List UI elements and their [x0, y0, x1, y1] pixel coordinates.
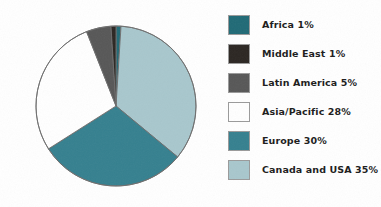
pie-slice-group — [36, 26, 196, 186]
legend-item-label: Asia/Pacific 28% — [262, 107, 351, 117]
legend-item-label: Europe 30% — [262, 136, 327, 146]
pie-chart-svg — [30, 20, 202, 192]
legend-item[interactable]: Africa 1% — [228, 10, 378, 39]
legend-item-label: Africa 1% — [262, 20, 314, 30]
legend-item-label: Latin America 5% — [262, 78, 357, 88]
legend-color-swatch — [228, 131, 250, 151]
legend-item-label: Middle East 1% — [262, 49, 345, 59]
legend-color-swatch — [228, 44, 250, 64]
chart-legend: Africa 1%Middle East 1%Latin America 5%A… — [228, 10, 378, 184]
legend-item[interactable]: Latin America 5% — [228, 68, 378, 97]
legend-item[interactable]: Europe 30% — [228, 126, 378, 155]
legend-item[interactable]: Canada and USA 35% — [228, 155, 378, 184]
legend-color-swatch — [228, 160, 250, 180]
legend-color-swatch — [228, 73, 250, 93]
legend-item[interactable]: Asia/Pacific 28% — [228, 97, 378, 126]
pie-chart-figure: Africa 1%Middle East 1%Latin America 5%A… — [0, 0, 381, 207]
legend-color-swatch — [228, 15, 250, 35]
legend-color-swatch — [228, 102, 250, 122]
pie-chart-plot-area — [30, 20, 202, 192]
legend-item[interactable]: Middle East 1% — [228, 39, 378, 68]
legend-item-label: Canada and USA 35% — [262, 165, 378, 175]
